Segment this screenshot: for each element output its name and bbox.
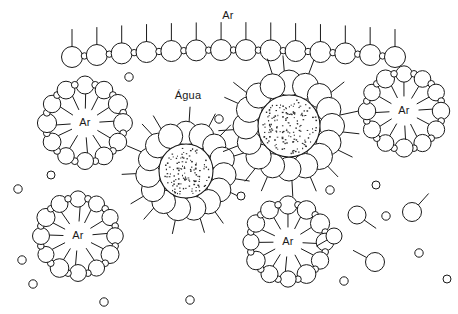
free-small-circle — [382, 212, 390, 220]
free-small-circle — [326, 186, 334, 194]
bubble-head-circle — [76, 152, 93, 169]
free-small-circle — [372, 181, 380, 189]
free-small-circle — [415, 249, 423, 257]
surfactant-micelle-diagram: Ar Água Ar Ar Ar Ar — [0, 0, 458, 314]
monolayer-head-circle — [335, 43, 356, 64]
monomer-head-circle — [403, 203, 422, 222]
monolayer-head-circle — [86, 45, 107, 66]
monolayer-head-circle — [186, 40, 207, 61]
free-small-circle — [125, 73, 133, 81]
monolayer-head-circle — [111, 43, 132, 64]
bubble-head-circle — [243, 234, 259, 250]
bubble-head-circle — [107, 228, 124, 245]
bubble-linker-circle — [71, 81, 78, 88]
monolayer-head-circle — [385, 47, 406, 68]
monomer-head-circle — [366, 253, 385, 272]
free-small-circle — [215, 115, 223, 123]
free-small-circle — [18, 256, 26, 264]
monolayer-head-circle — [310, 42, 331, 63]
label-water: Água — [175, 89, 202, 101]
monomer-head-circle — [326, 228, 342, 244]
label-air-top: Ar — [222, 9, 234, 21]
free-small-circle — [29, 280, 37, 288]
monolayer-head-circle — [235, 40, 256, 61]
monolayer-head-circle — [260, 40, 281, 61]
free-small-circle — [47, 171, 55, 179]
bubble-head-circle — [396, 66, 412, 82]
monolayer-head-circle — [62, 47, 83, 68]
diagram-canvas: Ar Água Ar Ar Ar Ar — [0, 0, 458, 314]
monolayer-head-circle — [360, 45, 381, 66]
free-small-circle — [237, 192, 245, 200]
bubble-head-circle — [358, 102, 376, 120]
label-air-bubble-top-left: Ar — [79, 116, 91, 128]
bubble-linker-circle — [65, 196, 72, 203]
bubble-head-circle — [70, 265, 87, 282]
label-air-bubble-top-right: Ar — [398, 104, 410, 116]
label-air-bubble-bottom-left: Ar — [72, 229, 84, 241]
micelle-head-circle — [260, 74, 285, 99]
bubble-head-circle — [280, 271, 296, 287]
free-small-circle — [443, 275, 451, 283]
free-small-circle — [340, 277, 348, 285]
micelle-water-core — [159, 144, 213, 198]
bubble-head-circle — [33, 228, 50, 245]
free-small-circle — [100, 298, 108, 306]
label-air-bubble-bottom-center: Ar — [282, 235, 294, 247]
bubble-linker-circle — [275, 202, 282, 209]
monolayer-head-circle — [161, 41, 182, 62]
monolayer-head-circle — [285, 41, 306, 62]
bubble-head-circle — [76, 76, 94, 94]
free-small-circle — [14, 185, 22, 193]
monolayer-head-circle — [211, 40, 232, 61]
bubble-head-circle — [70, 191, 86, 207]
monomer-head-circle — [348, 206, 366, 224]
free-small-circle — [186, 296, 194, 304]
monolayer-head-circle — [136, 42, 157, 63]
micelle-water-core — [258, 95, 320, 157]
bubble-linker-circle — [391, 71, 398, 78]
bubble-head-circle — [432, 102, 449, 119]
